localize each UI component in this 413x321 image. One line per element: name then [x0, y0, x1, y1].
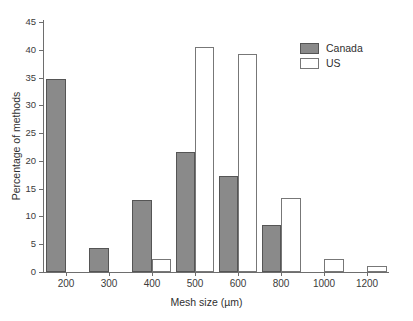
legend-item-us: US — [300, 56, 400, 71]
x-axis-line — [43, 272, 389, 273]
legend-label-canada: Canada — [326, 43, 363, 54]
x-tick-mark — [281, 272, 282, 276]
bar-canada-800 — [262, 225, 281, 272]
bar-us-800 — [281, 198, 300, 272]
y-axis-title: Percentage of methods — [10, 66, 22, 226]
x-tick-mark — [238, 272, 239, 276]
legend-label-us: US — [326, 58, 341, 69]
x-tick-label: 600 — [215, 278, 261, 290]
bar-canada-500 — [176, 152, 195, 272]
y-tick-label-text: 45 — [14, 17, 36, 27]
legend-item-canada: Canada — [300, 41, 400, 56]
bar-us-500 — [195, 47, 214, 272]
bar-canada-600 — [219, 176, 238, 272]
x-tick-mark — [109, 272, 110, 276]
y-tick-label-text: 5 — [14, 239, 36, 249]
bar-canada-300 — [89, 248, 108, 272]
x-tick-label: 1000 — [301, 278, 347, 290]
chart-legend: Canada US — [300, 41, 400, 71]
filled-gray-swatch-icon — [300, 43, 319, 54]
y-tick-label-text: 0 — [14, 267, 36, 277]
x-axis-title: Mesh size (µm) — [0, 296, 413, 308]
chart-figure: 051015202530354045 200300400500600800100… — [0, 0, 413, 321]
bar-us-400 — [152, 259, 171, 272]
bar-us-1200 — [367, 266, 386, 272]
y-tick-label: 0 — [10, 267, 36, 277]
x-tick-mark — [195, 272, 196, 276]
x-tick-mark — [152, 272, 153, 276]
bar-canada-400 — [132, 200, 151, 272]
x-tick-mark — [324, 272, 325, 276]
y-tick-label: 45 — [10, 17, 36, 27]
x-tick-label: 800 — [258, 278, 304, 290]
bar-canada-200 — [46, 79, 65, 272]
bar-us-1000 — [324, 259, 343, 272]
y-tick-label: 5 — [10, 239, 36, 249]
x-tick-label: 300 — [86, 278, 132, 290]
x-tick-label: 400 — [129, 278, 175, 290]
y-tick-label-text: 40 — [14, 45, 36, 55]
bar-us-600 — [238, 54, 257, 272]
x-tick-mark — [367, 272, 368, 276]
x-tick-mark — [66, 272, 67, 276]
x-tick-label: 200 — [43, 278, 89, 290]
y-tick-label: 40 — [10, 45, 36, 55]
y-tick-mark — [39, 272, 44, 273]
x-tick-label: 500 — [172, 278, 218, 290]
white-outline-swatch-icon — [300, 58, 319, 69]
x-tick-label: 1200 — [344, 278, 390, 290]
